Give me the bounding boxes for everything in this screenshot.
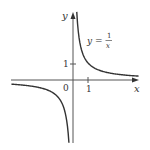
reciprocal-function-graph: y x 0 1 1 y = 1 x bbox=[0, 0, 150, 150]
equation-denominator: x bbox=[106, 42, 110, 50]
equation-label: y = 1 x bbox=[86, 32, 112, 50]
equation-numerator: 1 bbox=[107, 32, 111, 40]
y-axis-label: y bbox=[61, 10, 68, 21]
x-axis-label: x bbox=[134, 83, 140, 94]
x-tick-label-1: 1 bbox=[86, 84, 92, 94]
equation-lhs: y = bbox=[86, 36, 103, 46]
origin-label: 0 bbox=[63, 83, 69, 93]
y-axis-arrowhead-icon bbox=[71, 12, 76, 19]
y-tick-label-1: 1 bbox=[63, 59, 69, 69]
curve-negative-branch bbox=[11, 84, 69, 143]
x-axis-arrowhead-icon bbox=[132, 78, 139, 83]
